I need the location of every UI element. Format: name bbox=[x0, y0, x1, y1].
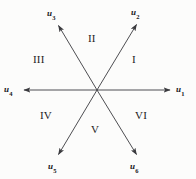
sector-label-5: V bbox=[91, 124, 99, 135]
vector-lines-group bbox=[24, 25, 170, 155]
vector-sector-diagram: u1 u2 u3 u4 u5 u6 I II III IV V VI bbox=[0, 0, 196, 179]
vector-label-u1: u1 bbox=[176, 85, 184, 96]
sector-label-1: I bbox=[132, 54, 136, 65]
sector-label-6: VI bbox=[135, 110, 147, 121]
vector-label-u4: u4 bbox=[4, 85, 12, 96]
vector-label-u3: u3 bbox=[47, 9, 55, 20]
sector-label-2: II bbox=[88, 33, 96, 44]
vector-line-u6 bbox=[97, 90, 137, 155]
sector-label-4: IV bbox=[40, 110, 52, 121]
vector-axes-svg bbox=[0, 0, 196, 179]
vector-label-u5: u5 bbox=[48, 162, 56, 173]
vector-line-u2 bbox=[97, 25, 137, 91]
vector-label-u6: u6 bbox=[130, 162, 138, 173]
sector-label-3: III bbox=[33, 54, 45, 65]
vector-label-u2: u2 bbox=[131, 8, 139, 19]
